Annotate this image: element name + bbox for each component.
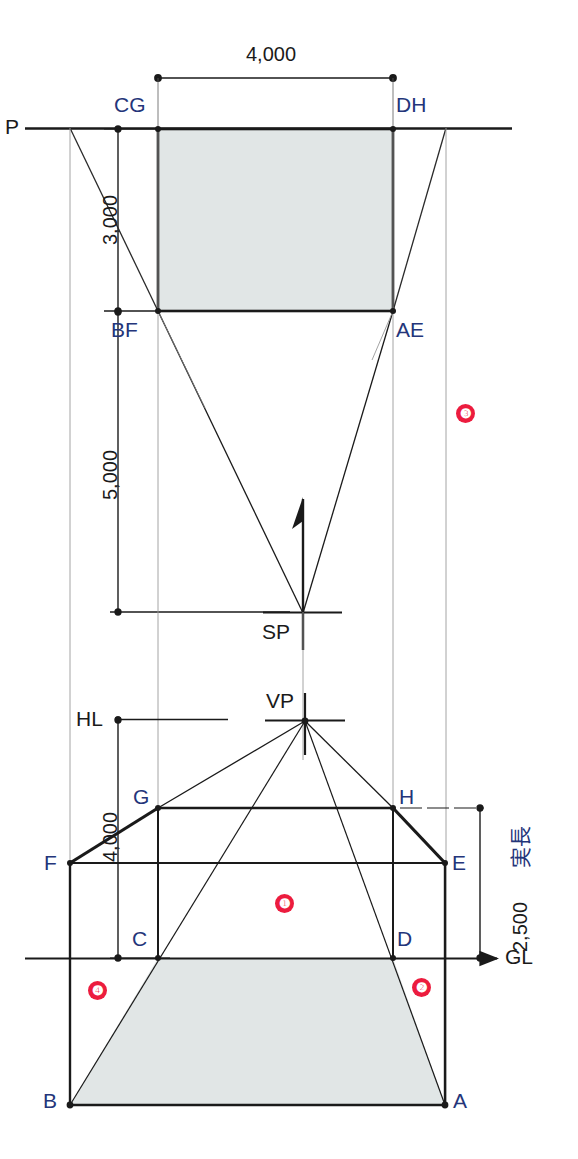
annotation-true-length: 実長: [510, 826, 531, 868]
dim-label-5000: 5,000: [100, 450, 120, 500]
dot-h: [390, 805, 396, 811]
point-label-ae: AE: [396, 319, 424, 340]
reference-label-p: P: [5, 116, 19, 137]
plan-rectangle-fill: [158, 129, 393, 311]
dot-bf: [155, 308, 161, 314]
receding-line-vp-g: [158, 721, 305, 808]
dot-dh: [390, 126, 396, 132]
dot-vp: [302, 718, 309, 725]
step-marker-4: ❹: [88, 981, 107, 1000]
point-label-vp: VP: [266, 690, 294, 711]
point-label-b: B: [43, 1090, 57, 1111]
edge-h-e: [393, 808, 445, 863]
floor-plane-fill: [70, 958, 445, 1105]
dim-label-4000-top: 4,000: [246, 44, 296, 64]
point-label-bf: BF: [111, 319, 138, 340]
sight-line-bf-lower: [158, 311, 205, 408]
dot-ae: [390, 308, 396, 314]
reference-label-hl: HL: [76, 708, 103, 729]
dot-a: [442, 1102, 449, 1109]
point-label-h: H: [399, 786, 414, 807]
dim-label-3000: 3,000: [100, 195, 120, 245]
receding-line-vp-h: [305, 721, 393, 808]
dot-c: [155, 955, 161, 961]
perspective-drawing-canvas: 4,000 CG DH P 3,000 BF AE 5,000 SP VP HL…: [0, 0, 578, 1159]
step-marker-1: ❶: [275, 894, 294, 913]
point-label-f: F: [44, 852, 57, 873]
point-label-g: G: [133, 786, 149, 807]
point-label-a: A: [453, 1090, 467, 1111]
sight-line-ae-extended: [393, 128, 446, 311]
dot-g: [155, 805, 161, 811]
dot-f: [67, 860, 73, 866]
point-label-cg: CG: [114, 94, 146, 115]
point-label-dh: DH: [396, 94, 426, 115]
dot-cg: [155, 126, 161, 132]
dim-label-4000-side: 4,000: [100, 812, 120, 862]
point-label-sp: SP: [262, 621, 290, 642]
step-marker-2: ❷: [412, 978, 431, 997]
sp-direction-arrowhead: [292, 497, 303, 529]
point-label-c: C: [132, 928, 147, 949]
dot-b: [67, 1102, 74, 1109]
plan-view-group: [25, 78, 512, 650]
dot-e: [442, 860, 448, 866]
point-label-d: D: [397, 928, 412, 949]
dot-d: [390, 955, 396, 961]
step-marker-3: ❸: [456, 404, 475, 423]
technical-drawing-svg: [0, 0, 578, 1159]
sight-line-sp-ae: [303, 311, 393, 613]
dim-label-2500: 2,500: [510, 902, 530, 952]
point-label-e: E: [452, 852, 466, 873]
sight-line-ae-lower: [372, 311, 393, 360]
